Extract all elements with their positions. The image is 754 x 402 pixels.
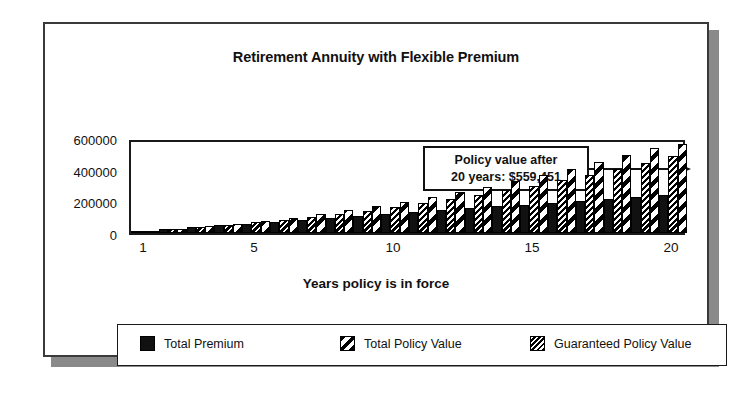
bar-total-year-4 — [233, 224, 242, 233]
bar-guaranteed-year-8 — [335, 214, 344, 233]
chart-legend: Total PremiumTotal Policy ValueGuarantee… — [117, 324, 727, 366]
x-tick-label: 1 — [139, 240, 147, 255]
bar-total-year-11 — [428, 197, 437, 233]
bar-guaranteed-year-3 — [196, 227, 205, 233]
y-axis: 0200000400000600000 — [45, 140, 123, 235]
legend-label: Total Policy Value — [364, 337, 462, 351]
chart-title: Retirement Annuity with Flexible Premium — [45, 49, 707, 65]
bar-premium-year-16 — [548, 203, 557, 233]
y-tick-label: 200000 — [74, 196, 117, 211]
bar-premium-year-14 — [492, 206, 501, 233]
x-axis: 15101520 — [129, 240, 685, 260]
x-tick-label: 5 — [250, 240, 258, 255]
x-axis-title: Years policy is in force — [45, 276, 707, 291]
bar-total-year-12 — [455, 192, 464, 233]
bar-total-year-1 — [150, 231, 159, 233]
bars-layer — [131, 142, 683, 233]
bar-total-year-16 — [567, 169, 576, 233]
bar-total-year-17 — [594, 162, 603, 233]
bar-total-year-3 — [205, 226, 214, 233]
bar-guaranteed-year-13 — [474, 195, 483, 233]
bar-total-year-13 — [483, 187, 492, 233]
y-tick-label: 400000 — [74, 164, 117, 179]
bar-guaranteed-year-12 — [446, 199, 455, 233]
legend-entry-guaranteed: Guaranteed Policy Value — [530, 336, 691, 351]
legend-label: Guaranteed Policy Value — [554, 337, 691, 351]
bar-premium-year-20 — [659, 195, 668, 233]
legend-entry-total: Total Policy Value — [340, 336, 462, 351]
chart-figure-frame: Retirement Annuity with Flexible Premium… — [43, 22, 709, 357]
legend-swatch-premium-icon — [140, 336, 155, 351]
bar-premium-year-5 — [242, 224, 251, 234]
bar-guaranteed-year-5 — [251, 222, 260, 233]
bar-premium-year-19 — [631, 197, 640, 233]
bar-guaranteed-year-7 — [307, 217, 316, 233]
bar-total-year-10 — [400, 202, 409, 233]
x-tick-label: 10 — [386, 240, 401, 255]
bar-total-year-19 — [650, 148, 659, 234]
bar-premium-year-12 — [437, 210, 446, 233]
bar-guaranteed-year-6 — [279, 220, 288, 233]
bar-premium-year-11 — [409, 212, 418, 233]
bar-guaranteed-year-2 — [168, 229, 177, 233]
bar-total-year-14 — [511, 181, 520, 233]
legend-swatch-total-icon — [340, 336, 355, 351]
bar-guaranteed-year-19 — [641, 163, 650, 233]
bar-total-year-20 — [678, 144, 687, 233]
bar-premium-year-2 — [159, 229, 168, 233]
bar-total-year-9 — [372, 206, 381, 233]
bar-premium-year-9 — [353, 216, 362, 233]
bar-total-year-5 — [261, 221, 270, 233]
callout-line-1: Policy value after — [425, 152, 587, 169]
bar-guaranteed-year-17 — [585, 175, 594, 233]
plot-area — [129, 140, 685, 235]
y-tick-label: 600000 — [74, 133, 117, 148]
bar-premium-year-4 — [214, 225, 223, 233]
bar-premium-year-3 — [187, 227, 196, 233]
bar-total-year-8 — [344, 210, 353, 233]
bar-premium-year-8 — [326, 218, 335, 233]
x-tick-label: 20 — [664, 240, 679, 255]
bar-guaranteed-year-4 — [224, 225, 233, 233]
legend-swatch-guaranteed-icon — [530, 336, 545, 351]
bar-guaranteed-year-10 — [390, 207, 399, 233]
bar-guaranteed-year-9 — [363, 211, 372, 233]
bar-total-year-18 — [622, 155, 631, 233]
legend-entry-premium: Total Premium — [140, 336, 244, 351]
y-tick-label: 0 — [110, 228, 117, 243]
legend-label: Total Premium — [164, 337, 244, 351]
bar-guaranteed-year-1 — [140, 231, 149, 233]
bar-guaranteed-year-15 — [529, 186, 538, 234]
bar-guaranteed-year-11 — [418, 203, 427, 233]
bar-premium-year-13 — [465, 208, 474, 233]
bar-guaranteed-year-20 — [668, 156, 677, 233]
bar-premium-year-17 — [576, 201, 585, 233]
bar-total-year-15 — [539, 175, 548, 233]
bar-guaranteed-year-16 — [557, 180, 566, 233]
bar-premium-year-10 — [381, 214, 390, 233]
bar-premium-year-7 — [298, 220, 307, 233]
bar-premium-year-18 — [604, 199, 613, 233]
bar-premium-year-15 — [520, 205, 529, 234]
bar-premium-year-6 — [270, 222, 279, 233]
bar-total-year-6 — [289, 218, 298, 233]
bar-guaranteed-year-18 — [613, 169, 622, 233]
bar-total-year-2 — [177, 229, 186, 233]
x-tick-label: 15 — [525, 240, 540, 255]
bar-guaranteed-year-14 — [502, 190, 511, 233]
bar-premium-year-1 — [131, 231, 140, 233]
bar-total-year-7 — [316, 214, 325, 233]
